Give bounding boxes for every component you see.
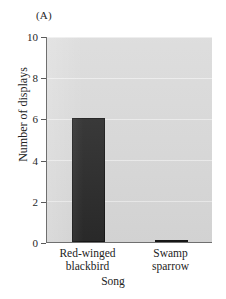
y-axis-tick-label: 2 [0,197,38,208]
y-axis-title: Number of displays [16,35,31,195]
y-axis-tick [41,202,46,203]
x-axis-tick-label: Swampsparrow [116,247,226,273]
panel-label: (A) [36,9,52,21]
gridline [47,78,212,79]
y-axis-tick [41,78,46,79]
x-axis-tick-label-line: Swamp [116,247,226,260]
y-axis-tick [41,37,46,38]
bar [155,240,188,242]
plot-area [46,37,212,243]
y-axis-tick [41,161,46,162]
bar [72,118,105,242]
gridline [47,37,212,38]
x-axis-tick-label-line: sparrow [116,260,226,273]
x-axis-title: Song [0,275,226,287]
y-axis-tick [41,119,46,120]
y-axis-tick [41,243,46,244]
